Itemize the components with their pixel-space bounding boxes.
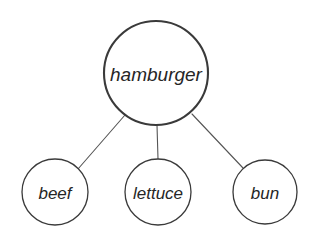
node-lettuce[interactable]: lettuce — [125, 159, 191, 225]
semantic-network-diagram: hamburger beef lettuce bun — [0, 0, 313, 239]
edge-hamburger-lettuce — [157, 125, 158, 159]
bun-node-label: bun — [251, 184, 279, 203]
beef-node-label: beef — [38, 184, 73, 203]
node-beef[interactable]: beef — [22, 159, 88, 225]
edge-hamburger-beef — [78, 115, 125, 169]
node-bun[interactable]: bun — [233, 160, 297, 224]
node-hamburger[interactable]: hamburger — [104, 21, 208, 125]
hamburger-node-label: hamburger — [110, 64, 203, 85]
lettuce-node-label: lettuce — [133, 184, 183, 203]
edge-hamburger-bun — [192, 114, 243, 168]
diagram-canvas: hamburger beef lettuce bun — [0, 0, 313, 239]
